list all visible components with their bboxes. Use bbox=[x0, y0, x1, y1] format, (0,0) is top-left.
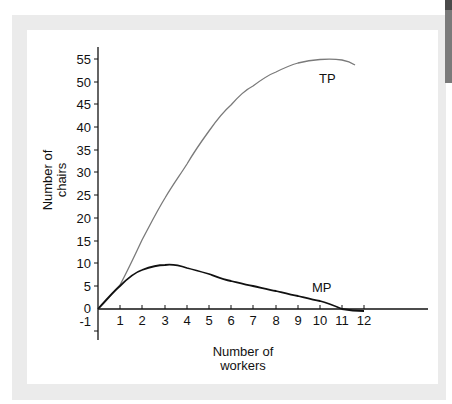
x-tick-label: 7 bbox=[249, 313, 256, 328]
x-tick-label: 9 bbox=[294, 313, 301, 328]
y-tick-label: -1 bbox=[79, 314, 91, 329]
y-tick-label: 45 bbox=[77, 97, 91, 112]
y-axis-title-line1: Number of bbox=[40, 149, 55, 210]
x-tick-label: 10 bbox=[313, 313, 327, 328]
y-tick-label: 20 bbox=[77, 211, 91, 226]
x-axis-title: Number of workers bbox=[213, 344, 274, 373]
x-tick-label: 8 bbox=[272, 313, 279, 328]
y-tick-label: 5 bbox=[84, 279, 91, 294]
x-tick-label: 12 bbox=[357, 313, 371, 328]
mp-label: MP bbox=[312, 280, 332, 295]
x-tick-label: 6 bbox=[227, 313, 234, 328]
production-chart: 55 50 45 40 35 30 25 20 15 10 5 0 -1 1 2… bbox=[0, 0, 452, 404]
y-tick-labels: 55 50 45 40 35 30 25 20 15 10 5 0 -1 bbox=[77, 52, 91, 329]
y-axis-title-line2: chairs bbox=[54, 162, 69, 197]
x-axis-title-line1: Number of bbox=[213, 344, 274, 359]
tp-label: TP bbox=[319, 71, 336, 86]
y-tick-label: 30 bbox=[77, 165, 91, 180]
y-tick-label: 25 bbox=[77, 188, 91, 203]
y-tick-label: 35 bbox=[77, 143, 91, 158]
y-tick-label: 10 bbox=[77, 256, 91, 271]
x-axis-title-line2: workers bbox=[219, 358, 266, 373]
x-tick-label: 4 bbox=[183, 313, 190, 328]
x-tick-label: 3 bbox=[161, 313, 168, 328]
x-tick-labels: 1 2 3 4 5 6 7 8 9 10 11 12 bbox=[116, 313, 371, 328]
y-axis-title: Number of chairs bbox=[40, 149, 69, 210]
x-tick-label: 11 bbox=[335, 313, 349, 328]
y-tick-label: 40 bbox=[77, 120, 91, 135]
x-tick-label: 1 bbox=[116, 313, 123, 328]
y-tick-label: 15 bbox=[77, 234, 91, 249]
y-tick-label: 55 bbox=[77, 52, 91, 67]
y-tick-label: 50 bbox=[77, 75, 91, 90]
x-tick-label: 2 bbox=[138, 313, 145, 328]
x-tick-label: 5 bbox=[205, 313, 212, 328]
